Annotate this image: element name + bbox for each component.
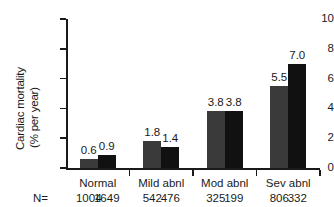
bar [161, 147, 179, 168]
bar [98, 155, 116, 168]
n-value-label: 476 [152, 192, 188, 204]
n-value-label: 199 [216, 192, 252, 204]
bar [225, 111, 243, 168]
n-value-label: 332 [279, 192, 315, 204]
n-value-label: 1649 [89, 192, 125, 204]
bar-value-label: 1.4 [156, 133, 184, 145]
bar [207, 111, 225, 168]
bar [270, 86, 288, 168]
bar [288, 64, 306, 168]
cardiac-mortality-bar-chart: Cardiac mortality (% per year) 0246810 0… [0, 0, 334, 207]
n-prefix-label: N= [33, 192, 48, 204]
category-label: Normal [66, 177, 130, 189]
bar-value-label: 0.9 [93, 141, 121, 153]
category-label: Sev abnl [257, 177, 321, 189]
bar-value-label: 7.0 [283, 50, 311, 62]
bar-value-label: 3.8 [220, 97, 248, 109]
bar [143, 141, 161, 168]
bar [80, 159, 98, 168]
bars-layer: 0.60.91.81.43.83.85.57.0 [0, 0, 334, 207]
category-label: Mild abnl [130, 177, 194, 189]
category-label: Mod abnl [193, 177, 257, 189]
